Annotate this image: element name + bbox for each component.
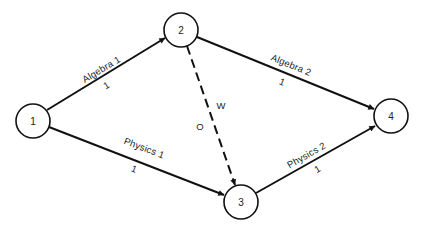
arrow-line [47,38,165,110]
network-diagram: Algebra 1 1 Algebra 2 1 Physics 1 1 Phys… [0,0,422,231]
node-label-1: 1 [30,116,36,127]
edge-duration-physics-1: 1 [130,163,139,175]
node-3: 3 [224,185,258,219]
edge-duration-algebra-1: 1 [101,79,111,91]
arrow-line [49,127,224,195]
edge-duration-algebra-2: 1 [278,76,287,88]
dashed-arrow-line [187,46,235,185]
arrow-line [197,37,374,109]
edge-physics-2: Physics 2 1 [256,126,375,193]
edge-algebra-2: Algebra 2 1 [197,37,374,109]
edge-duration-physics-2: 1 [312,163,322,175]
edge-label-physics-1: Physics 1 [122,135,166,160]
node-label-4: 4 [388,111,394,122]
edge-algebra-1: Algebra 1 1 [47,38,165,110]
edge-physics-1: Physics 1 1 [49,127,224,195]
edge-label-algebra-2: Algebra 2 [270,52,313,78]
arrow-line [256,126,375,193]
node-label-2: 2 [178,25,184,36]
node-2: 2 [164,13,198,47]
edge-dummy-w: W O [187,46,235,185]
node-4: 4 [374,99,408,133]
edge-label-w: W [216,100,225,111]
edge-duration-o: O [196,121,204,132]
node-1: 1 [16,104,50,138]
node-label-3: 3 [238,197,244,208]
